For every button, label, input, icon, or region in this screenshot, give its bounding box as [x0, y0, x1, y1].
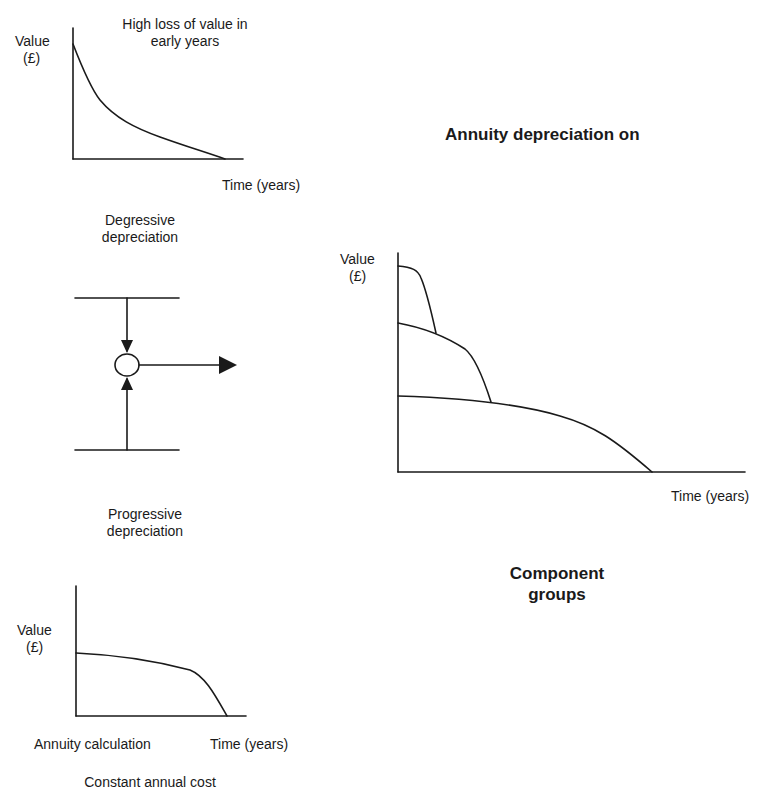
down-arrow-icon: [121, 340, 133, 353]
component-caption-line2: groups: [482, 584, 632, 605]
component-groups-title: Annuity depreciation on: [445, 124, 640, 145]
annuity-x-label: Time (years): [210, 736, 288, 753]
junction-circle-icon: [115, 354, 139, 376]
component-curve-1: [398, 266, 436, 333]
diagram-canvas: [0, 0, 774, 804]
degressive-annotation-line1: High loss of value in: [105, 16, 265, 33]
progressive-caption-line2: depreciation: [85, 523, 205, 540]
annuity-y-unit: (£): [26, 639, 43, 656]
component-curve-3: [398, 396, 652, 472]
component-y-label: Value: [340, 251, 375, 268]
right-arrow-icon: [219, 356, 237, 374]
component-groups-chart: [398, 253, 745, 472]
component-x-label: Time (years): [671, 488, 749, 505]
component-y-unit: (£): [349, 268, 366, 285]
degressive-y-label: Value: [15, 33, 50, 50]
degressive-caption-line1: Degressive: [80, 212, 200, 229]
component-curve-2: [398, 323, 491, 402]
degressive-x-label: Time (years): [222, 177, 300, 194]
annuity-caption: Constant annual cost: [60, 774, 240, 791]
progressive-caption-line1: Progressive: [85, 506, 205, 523]
progressive-symbol: [75, 298, 237, 450]
up-arrow-icon: [121, 377, 133, 390]
degressive-caption-line2: depreciation: [80, 229, 200, 246]
annuity-left-label: Annuity calculation: [34, 736, 151, 753]
degressive-y-unit: (£): [23, 50, 40, 67]
annuity-curve: [76, 653, 227, 716]
degressive-curve: [73, 44, 225, 159]
annuity-chart: [76, 586, 246, 716]
degressive-annotation-line2: early years: [105, 33, 265, 50]
annuity-y-label: Value: [17, 622, 52, 639]
component-caption-line1: Component: [482, 563, 632, 584]
